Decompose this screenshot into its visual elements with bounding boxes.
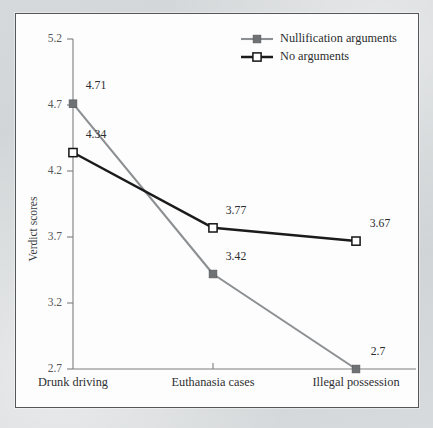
- marker-no-arguments-0: [69, 149, 77, 157]
- y-tick-label-4: 3.2: [48, 296, 63, 308]
- legend-item-nullification-arguments[interactable]: Nullification arguments: [241, 31, 397, 45]
- y-tick-label-1: 4.7: [48, 98, 63, 110]
- marker-no-arguments-2: [352, 237, 360, 245]
- point-label-no-arguments-1: 3.77: [226, 204, 247, 217]
- point-label-nullification-1: 3.42: [226, 250, 247, 263]
- legend-label-no-arguments: No arguments: [280, 49, 349, 63]
- x-axis-label-euthanasia-cases: Euthanasia cases: [172, 375, 255, 389]
- line-chart: 5.2 4.7 4.2 3.7 3.2 2.7 Verdict scores D…: [16, 14, 418, 407]
- y-tick-label-0: 5.2: [48, 32, 63, 44]
- x-axis-label-drunk-driving: Drunk driving: [38, 375, 108, 389]
- marker-nullification-0: [69, 100, 77, 108]
- point-label-no-arguments-0: 4.34: [86, 128, 107, 141]
- y-tick-label-2: 4.2: [48, 164, 63, 176]
- y-tick-label-5: 2.7: [48, 362, 63, 374]
- y-tick-label-3: 3.7: [48, 230, 63, 242]
- marker-nullification-1: [209, 270, 217, 278]
- legend-label-nullification-arguments: Nullification arguments: [280, 31, 397, 45]
- marker-nullification-2: [352, 365, 360, 373]
- legend-item-no-arguments[interactable]: No arguments: [241, 49, 349, 63]
- marker-no-arguments-1: [209, 224, 217, 232]
- point-label-nullification-2: 2.7: [371, 345, 386, 358]
- x-axis-label-illegal-possession: Illegal possession: [312, 375, 399, 389]
- legend-marker-filled-square-icon: [253, 35, 261, 43]
- legend: Nullification arguments No arguments: [241, 31, 397, 63]
- point-label-nullification-0: 4.71: [86, 79, 107, 92]
- point-label-no-arguments-2: 3.67: [370, 217, 391, 230]
- page-background: 5.2 4.7 4.2 3.7 3.2 2.7 Verdict scores D…: [0, 0, 433, 428]
- y-axis-title: Verdict scores: [27, 196, 39, 261]
- figure-panel: 5.2 4.7 4.2 3.7 3.2 2.7 Verdict scores D…: [15, 13, 419, 408]
- legend-marker-open-square-icon: [253, 53, 261, 61]
